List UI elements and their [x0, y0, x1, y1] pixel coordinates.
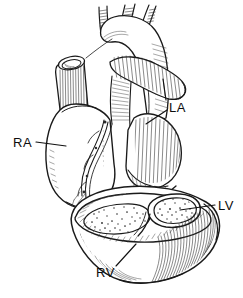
label-left-atrium: LA [169, 101, 186, 114]
ventricular-cross-section [71, 186, 219, 283]
label-right-atrium: RA [13, 136, 32, 149]
left-atrium [126, 114, 183, 194]
conus-arteriosus [111, 76, 132, 126]
heart-illustration [0, 0, 243, 298]
label-right-ventricle: RV [96, 266, 115, 279]
label-left-ventricle: LV [218, 199, 234, 212]
heart-anatomy-figure: RA LA LV RV [0, 0, 243, 298]
